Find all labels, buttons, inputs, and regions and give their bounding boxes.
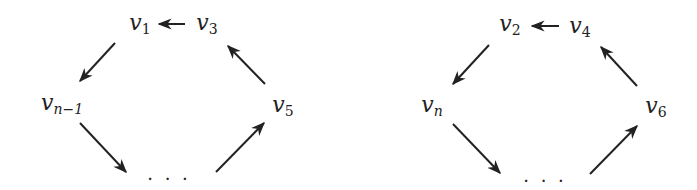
edge-v2-to-vn <box>453 45 489 84</box>
node-subscript: 2 <box>512 22 521 38</box>
node-base: v <box>272 92 284 117</box>
ellipsis-right: · · · <box>523 170 567 190</box>
edge-vn-to-dots <box>453 124 500 173</box>
cycle-diagrams <box>0 0 697 189</box>
node-v5: v5 <box>272 94 293 118</box>
node-vn-minus-1: vn−1 <box>41 92 83 116</box>
node-base: v <box>645 93 657 118</box>
node-base: v <box>421 92 433 117</box>
node-v3: v3 <box>196 12 217 36</box>
edge-v1-to-vn-1 <box>80 43 115 81</box>
node-base: v <box>499 11 511 36</box>
node-subscript: 3 <box>209 21 218 37</box>
ellipsis-left: · · · <box>147 168 191 189</box>
node-v2: v2 <box>499 13 520 37</box>
node-v6: v6 <box>645 95 666 119</box>
node-base: v <box>41 90 53 115</box>
node-subscript: 4 <box>582 24 591 40</box>
node-base: v <box>196 10 208 35</box>
node-subscript: 1 <box>142 21 151 37</box>
edge-dots-to-v6 <box>590 126 637 174</box>
edge-v6-to-v4 <box>601 47 637 86</box>
edge-dots-to-v5 <box>216 123 264 172</box>
edge-vn-1-to-dots <box>80 123 126 172</box>
node-base: v <box>569 13 581 38</box>
node-subscript: n−1 <box>53 101 83 117</box>
node-subscript: n <box>434 103 443 119</box>
node-base: v <box>129 10 141 35</box>
node-vn: vn <box>421 94 442 118</box>
node-v4: v4 <box>569 15 590 39</box>
node-subscript: 5 <box>285 103 294 119</box>
edge-v5-to-v3 <box>228 46 265 84</box>
node-v1: v1 <box>129 12 150 36</box>
node-subscript: 6 <box>658 104 667 120</box>
